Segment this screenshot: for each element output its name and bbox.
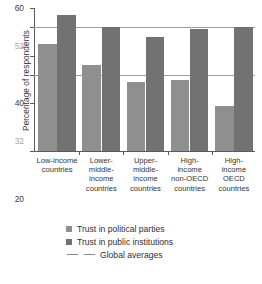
y-tick-label: 20 — [15, 194, 24, 204]
legend-item-global-averages: Global averages — [0, 248, 262, 261]
x-axis-label: Low-incomecountries — [33, 156, 81, 174]
bar-group-item — [123, 8, 167, 151]
x-tick-mark — [168, 151, 169, 155]
plot-area: 02032405260 — [34, 8, 255, 152]
bar — [190, 29, 209, 151]
legend-label: Trust in public institutions — [77, 237, 173, 247]
x-tick-mark — [79, 151, 80, 155]
y-tick-mark: 20 — [30, 103, 34, 104]
legend-dashed-line-icon — [67, 254, 95, 255]
y-tick-mark: 52 — [30, 27, 34, 28]
legend-item-public-institutions: Trust in public institutions — [0, 235, 262, 248]
chart-container: Percentage of respondents 02032405260 Lo… — [0, 0, 262, 284]
bar — [171, 80, 190, 152]
chart-legend: Trust in political parties Trust in publ… — [0, 222, 262, 261]
legend-item-political-parties: Trust in political parties — [0, 222, 262, 235]
bar — [234, 27, 253, 151]
y-tick-label: 40 — [15, 98, 24, 108]
y-tick-mark: 0 — [30, 151, 34, 152]
bar-group-item — [212, 8, 256, 151]
legend-swatch-icon — [66, 226, 72, 232]
x-axis-label: High-incomenon-OECDcountries — [166, 156, 214, 193]
bar-group-item — [35, 8, 79, 151]
y-axis-title: Percentage of respondents — [22, 11, 31, 151]
legend-label: Trust in political parties — [77, 224, 165, 234]
legend-label: Global averages — [100, 250, 163, 260]
bar — [38, 44, 57, 151]
x-axis-label: Lower-middle-incomecountries — [77, 156, 125, 193]
legend-swatch-icon — [66, 239, 72, 245]
y-tick-label: 32 — [15, 136, 24, 146]
bar — [102, 27, 121, 151]
bar — [57, 15, 76, 151]
y-tick-label: 60 — [15, 3, 24, 13]
y-tick-mark: 40 — [30, 56, 34, 57]
bar — [146, 37, 165, 151]
x-tick-mark — [212, 151, 213, 155]
bar-group-item — [79, 8, 123, 151]
x-tick-mark — [123, 151, 124, 155]
x-axis-label: High-incomeOECDcountries — [210, 156, 258, 193]
x-axis-labels: Low-incomecountriesLower-middle-incomeco… — [35, 156, 255, 212]
y-tick-label: 52 — [15, 41, 24, 51]
y-tick-mark: 60 — [30, 8, 34, 9]
bar-group — [35, 8, 255, 151]
x-axis-line — [34, 151, 255, 152]
bar — [82, 65, 101, 151]
bar — [127, 82, 146, 151]
x-axis-label: Upper-middle-incomecountries — [121, 156, 169, 193]
bar-group-item — [168, 8, 212, 151]
y-tick-mark: 32 — [30, 75, 34, 76]
bar — [215, 106, 234, 151]
